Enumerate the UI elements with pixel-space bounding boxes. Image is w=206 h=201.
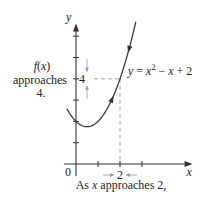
y-tick-label-4: 4	[79, 72, 85, 86]
y-axis-arrowhead	[73, 23, 79, 31]
y-axis-label: y	[65, 10, 72, 24]
curve-arrow-approaching-from-above	[127, 45, 132, 52]
x-axis-label: x	[186, 165, 193, 179]
annotation-fx: f(x)	[34, 59, 51, 73]
hint-arrow-down-to-4-head	[85, 68, 89, 72]
limit-diagram: y x 0 2 4 y = x2 − x + 2 f(x) approaches…	[0, 0, 206, 201]
hint-arrow-left-to-2-head	[126, 173, 130, 177]
origin-label: 0	[65, 165, 71, 179]
curve-equation-label: y = x2 − x + 2	[127, 63, 192, 78]
annotation-limit-value: 4.	[37, 86, 46, 100]
annotation-approaches: approaches	[13, 73, 67, 87]
curve-arrow-approaching-from-below	[108, 96, 113, 103]
eq-minus: −	[155, 64, 168, 78]
annotation-as-x-approaches: As x approaches 2,	[76, 178, 167, 192]
hint-arrow-right-to-2-head	[110, 173, 114, 177]
parabola-curve	[67, 22, 136, 127]
eq-equals: =	[133, 64, 146, 78]
hint-arrow-up-to-4-head	[85, 86, 89, 90]
eq-plus: + 2	[174, 64, 193, 78]
